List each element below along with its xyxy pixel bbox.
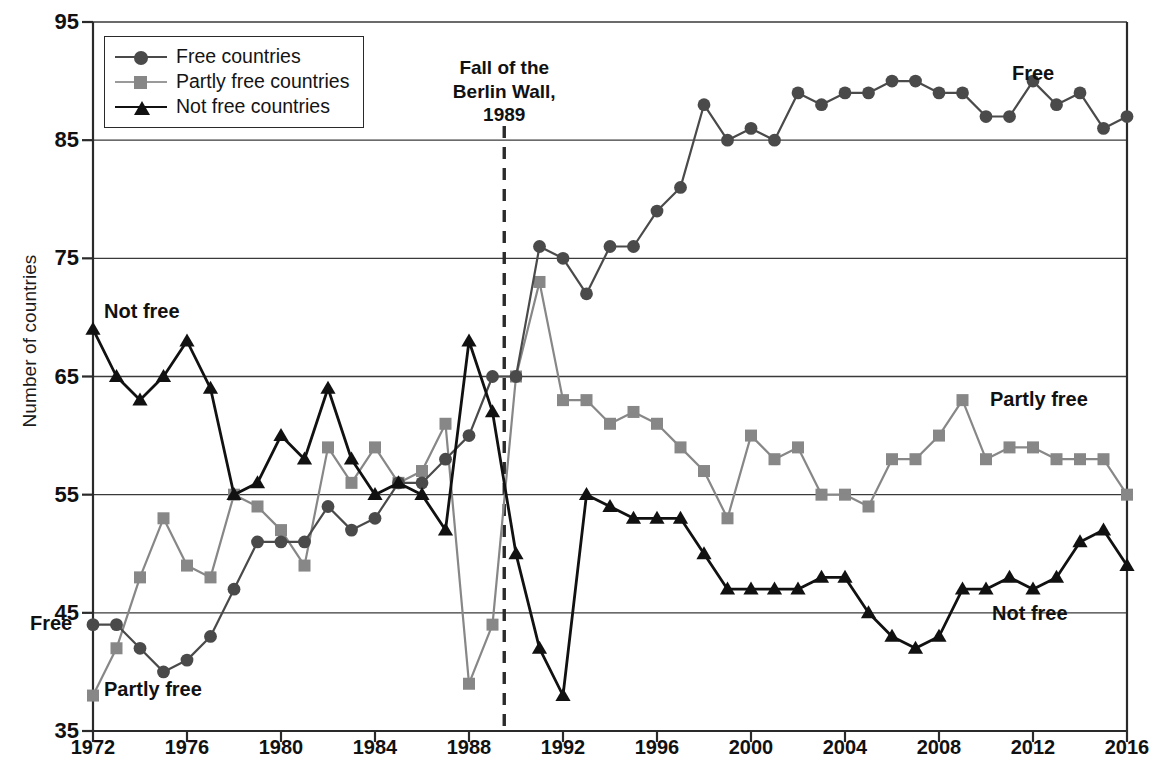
data-point: [298, 536, 311, 549]
data-point: [557, 252, 570, 265]
legend-item-partly-free[interactable]: Partly free countries: [115, 69, 349, 94]
data-point: [346, 477, 358, 489]
data-point: [345, 524, 358, 537]
data-point: [956, 87, 969, 100]
x-tick-label: 1988: [429, 736, 509, 759]
data-point: [745, 122, 758, 135]
data-point: [745, 430, 757, 442]
data-point: [203, 381, 218, 394]
data-point: [721, 134, 734, 147]
data-point: [674, 181, 687, 194]
data-point: [508, 546, 523, 559]
legend-swatch-partly-free: [115, 73, 167, 91]
data-point: [157, 666, 170, 679]
data-point: [862, 87, 875, 100]
data-point: [369, 441, 381, 453]
data-point: [722, 512, 734, 524]
data-point: [839, 87, 852, 100]
data-point: [320, 381, 335, 394]
data-point: [252, 500, 264, 512]
data-point: [1027, 441, 1039, 453]
series-label-not-free: Not free: [992, 602, 1068, 625]
data-point: [581, 394, 593, 406]
data-point: [440, 418, 452, 430]
x-tick-label: 1972: [53, 736, 133, 759]
y-tick-label: 55: [8, 482, 79, 508]
data-point: [698, 98, 711, 111]
data-point: [555, 688, 570, 701]
data-point: [792, 87, 805, 100]
data-point: [579, 487, 594, 500]
data-point: [886, 453, 898, 465]
data-point: [651, 418, 663, 430]
data-point: [532, 641, 547, 654]
data-point: [1004, 441, 1016, 453]
legend-label-not-free: Not free countries: [176, 95, 330, 118]
chart-legend: Free countries Partly free countries Not…: [104, 36, 364, 128]
y-tick-label: 75: [8, 245, 79, 271]
series-not_free: [85, 322, 1134, 701]
data-point: [675, 441, 687, 453]
data-point: [1121, 489, 1133, 501]
data-point: [275, 536, 288, 549]
data-point: [134, 642, 147, 655]
data-point: [205, 571, 217, 583]
data-point: [651, 205, 664, 218]
data-point: [251, 536, 264, 549]
data-point: [839, 489, 851, 501]
x-tick-label: 1976: [147, 736, 227, 759]
data-point: [909, 75, 922, 88]
data-point: [181, 560, 193, 572]
x-tick-label: 2008: [899, 736, 979, 759]
data-point: [273, 428, 288, 441]
data-point: [275, 524, 287, 536]
legend-swatch-free: [115, 48, 167, 66]
data-point: [463, 678, 475, 690]
data-point: [533, 240, 546, 253]
data-point: [485, 404, 500, 417]
data-point: [510, 370, 523, 383]
data-point: [109, 369, 124, 382]
chart-canvas: Number of countries Free countries Partl…: [0, 0, 1160, 774]
data-point: [792, 441, 804, 453]
data-point: [87, 618, 100, 631]
data-point: [557, 394, 569, 406]
data-point: [980, 110, 993, 123]
y-tick-label: 95: [8, 9, 79, 35]
x-tick-label: 2000: [711, 736, 791, 759]
data-point: [322, 500, 335, 513]
legend-label-partly-free: Partly free countries: [176, 70, 349, 93]
data-point: [816, 489, 828, 501]
data-point: [461, 333, 476, 346]
data-point: [604, 240, 617, 253]
data-point: [486, 370, 499, 383]
data-point: [179, 333, 194, 346]
x-tick-label: 2004: [805, 736, 885, 759]
data-point: [181, 654, 194, 667]
legend-item-not-free[interactable]: Not free countries: [115, 94, 349, 119]
series-label-partly-free: Partly free: [990, 388, 1088, 411]
data-point: [110, 618, 123, 631]
data-point: [1002, 570, 1017, 583]
data-point: [85, 322, 100, 335]
data-point: [769, 453, 781, 465]
data-point: [322, 441, 334, 453]
series-line: [93, 329, 1127, 695]
data-point: [299, 560, 311, 572]
data-point: [204, 630, 217, 643]
data-point: [1096, 523, 1111, 536]
data-point: [957, 394, 969, 406]
data-point: [1050, 98, 1063, 111]
data-point: [698, 465, 710, 477]
annotation-berlin-wall: Fall of the Berlin Wall, 1989: [399, 56, 609, 127]
data-point: [344, 452, 359, 465]
legend-item-free[interactable]: Free countries: [115, 44, 349, 69]
series-label-partly-free-left: Partly free: [104, 678, 202, 701]
data-point: [1003, 110, 1016, 123]
series-label-free: Free: [1012, 62, 1054, 85]
data-point: [931, 629, 946, 642]
data-point: [628, 406, 640, 418]
data-point: [1051, 453, 1063, 465]
data-point: [604, 418, 616, 430]
legend-swatch-not-free: [115, 98, 167, 116]
